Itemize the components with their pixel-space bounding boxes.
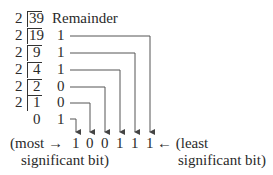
dividend: 1: [33, 94, 41, 110]
msb-label-line1: (most →: [10, 135, 63, 151]
divisor: 2: [15, 27, 23, 43]
final-quotient: 0: [33, 111, 41, 127]
msb-label-line2: significant bit): [21, 152, 109, 168]
bit: 0: [101, 135, 109, 151]
bit: 1: [131, 135, 139, 151]
dividend: 2: [33, 78, 41, 94]
dividend: 4: [33, 61, 41, 77]
remainder-header: Remainder: [52, 10, 118, 26]
lsb-label-line1: ← (least: [157, 135, 208, 151]
remainder: 0: [57, 94, 65, 110]
divisor: 2: [15, 94, 23, 110]
remainder: 1: [57, 27, 65, 43]
divisor: 2: [15, 61, 23, 77]
divisor: 2: [15, 44, 23, 60]
bit: 1: [116, 135, 124, 151]
bit: 1: [72, 135, 80, 151]
lsb-label-line2: significant bit): [178, 152, 266, 168]
remainder: 1: [57, 61, 65, 77]
bit: 0: [86, 135, 94, 151]
remainder: 1: [57, 111, 65, 127]
dividend: 39: [29, 10, 44, 26]
dividend: 9: [33, 44, 41, 60]
bit: 1: [146, 135, 154, 151]
divisor: 2: [15, 78, 23, 94]
remainder: 1: [57, 44, 65, 60]
remainder: 0: [57, 78, 65, 94]
divisor: 2: [15, 10, 23, 26]
dividend: 19: [29, 27, 44, 43]
